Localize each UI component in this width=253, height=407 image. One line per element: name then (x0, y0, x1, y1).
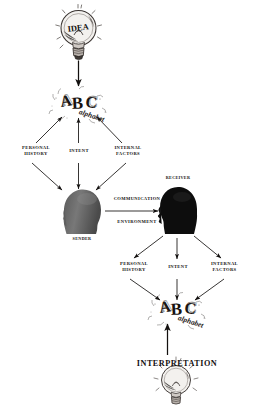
label-sender-intent: INTENT (56, 148, 102, 154)
abc-letters-icon: A B C A C alphabet (148, 292, 206, 330)
label-receiver-internal-factors: INTERNAL FACTORS (196, 261, 253, 273)
arrow-receiver-to-personal-history (134, 236, 163, 258)
arrow-internal-factors-to-sender (96, 163, 126, 190)
receiver-head-silhouette-icon (158, 187, 197, 234)
label-sender-caption: SENDER (52, 236, 112, 242)
label-sender-internal-factors: INTERNAL FACTORS (98, 145, 158, 157)
arrow-receiver-to-internal-factors (194, 236, 221, 258)
label-interpretation: INTERPRETATION (118, 359, 236, 370)
svg-text:C: C (185, 298, 198, 316)
sender-head-graphic (57, 187, 107, 235)
decode-alphabet-graphic: A B C A C alphabet (148, 292, 208, 330)
arrow-personal-history-to-sender (32, 163, 62, 190)
abc-letters-icon: A B C A C alphabet (49, 86, 107, 124)
lightbulb-icon: IDEA (56, 5, 102, 60)
interpretation-bulb-graphic (146, 348, 206, 406)
encode-alphabet-graphic: A B C A C alphabet (49, 86, 109, 124)
label-receiver-intent: INTENT (155, 264, 201, 270)
svg-text:C: C (86, 92, 99, 110)
idea-bulb-graphic: IDEA (52, 4, 106, 62)
label-receiver-caption: RECEIVER (148, 175, 208, 181)
communication-process-diagram: IDEA A B C (0, 0, 253, 407)
receiver-head-graphic (152, 184, 204, 236)
arrow-connectors (0, 0, 253, 407)
